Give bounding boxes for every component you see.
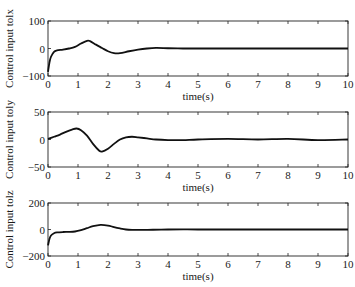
y-tick-label: −50 xyxy=(28,161,46,173)
series-line-toly xyxy=(48,128,348,151)
y-tick-label: 0 xyxy=(40,134,46,146)
x-tick-label: 7 xyxy=(255,258,261,270)
x-tick-label: 5 xyxy=(195,169,201,181)
x-tick-label: 6 xyxy=(225,258,231,270)
x-tick-label: 0 xyxy=(45,78,51,90)
x-axis-label: time(s) xyxy=(182,181,213,194)
x-tick-label: 2 xyxy=(105,169,111,181)
x-tick-label: 1 xyxy=(75,169,81,181)
x-tick-label: 8 xyxy=(285,169,291,181)
x-tick-label: 9 xyxy=(315,78,321,90)
subplot-tolz: 012345678910−2000200time(s)Control input… xyxy=(3,190,354,283)
x-tick-label: 10 xyxy=(343,258,355,270)
x-tick-label: 8 xyxy=(285,258,291,270)
y-tick-label: 100 xyxy=(29,15,46,27)
x-tick-label: 10 xyxy=(343,169,355,181)
y-tick-label: 0 xyxy=(40,43,46,55)
x-tick-label: 3 xyxy=(135,78,141,90)
x-tick-label: 5 xyxy=(195,78,201,90)
x-tick-label: 3 xyxy=(135,258,141,270)
x-tick-label: 2 xyxy=(105,78,111,90)
x-tick-label: 4 xyxy=(165,169,171,181)
y-tick-label: 0 xyxy=(40,224,46,236)
subplot-tolx: 012345678910−1000100time(s)Control input… xyxy=(3,9,354,103)
y-axis-label: Control input tolz xyxy=(3,190,15,268)
x-tick-label: 3 xyxy=(135,169,141,181)
x-tick-label: 9 xyxy=(315,258,321,270)
y-tick-label: −100 xyxy=(22,70,45,82)
x-axis-label: time(s) xyxy=(182,270,213,283)
x-tick-label: 7 xyxy=(255,78,261,90)
y-tick-label: 200 xyxy=(29,197,46,209)
chart-figure: 012345678910−1000100time(s)Control input… xyxy=(0,0,355,287)
x-tick-label: 9 xyxy=(315,169,321,181)
chart-canvas: 012345678910−1000100time(s)Control input… xyxy=(0,0,355,287)
series-line-tolx xyxy=(48,41,348,72)
x-tick-label: 0 xyxy=(45,169,51,181)
x-tick-label: 1 xyxy=(75,258,81,270)
x-tick-label: 8 xyxy=(285,78,291,90)
x-tick-label: 6 xyxy=(225,169,231,181)
x-tick-label: 1 xyxy=(75,78,81,90)
y-axis-label: Control input tolx xyxy=(3,9,15,88)
x-tick-label: 6 xyxy=(225,78,231,90)
y-tick-label: −200 xyxy=(22,250,45,262)
y-tick-label: 50 xyxy=(34,106,46,118)
series-line-tolz xyxy=(48,225,348,246)
x-tick-label: 4 xyxy=(165,258,171,270)
x-tick-label: 5 xyxy=(195,258,201,270)
x-tick-label: 10 xyxy=(343,78,355,90)
x-axis-label: time(s) xyxy=(182,90,213,103)
x-tick-label: 7 xyxy=(255,169,261,181)
subplot-toly: 012345678910−50050time(s)Control input t… xyxy=(3,100,354,194)
x-tick-label: 0 xyxy=(45,258,51,270)
x-tick-label: 2 xyxy=(105,258,111,270)
x-tick-label: 4 xyxy=(165,78,171,90)
y-axis-label: Control input toly xyxy=(3,100,15,179)
